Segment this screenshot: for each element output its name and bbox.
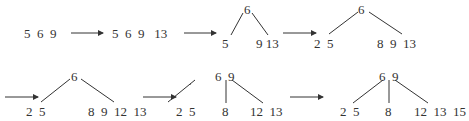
step-3-leaf: 5	[222, 37, 229, 50]
step-5-root: 6	[71, 70, 78, 83]
step-5-leaf: 2 5	[26, 105, 46, 118]
edge	[232, 80, 263, 103]
diagram-canvas	[0, 0, 469, 121]
step-6-leaf: 8	[222, 105, 229, 118]
step-6-root: 6 9	[215, 70, 235, 83]
step-1-keys: 5 6 9	[24, 27, 57, 40]
edge	[41, 79, 70, 102]
edge	[329, 12, 358, 34]
step-3-root: 6	[244, 3, 251, 16]
step-6-leaf: 2 5	[176, 105, 196, 118]
edge	[231, 13, 243, 35]
step-2-keys: 5 6 9 13	[112, 27, 167, 40]
edge	[395, 80, 428, 103]
step-5-leaf: 8 9 12 13	[88, 105, 147, 118]
step-3-leaf: 9 13	[256, 37, 279, 50]
step-4-root: 6	[358, 3, 365, 16]
step-7-leaf: 12 13 15	[414, 105, 466, 118]
step-6-leaf: 12 13	[250, 105, 283, 118]
edge	[81, 79, 114, 102]
step-7-leaf: 2 5	[340, 105, 360, 118]
step-4-leaf: 2 5	[314, 37, 334, 50]
step-7-root: 6 9	[379, 70, 399, 83]
step-7-leaf: 8	[385, 105, 392, 118]
edge	[168, 80, 195, 102]
edge	[369, 12, 402, 34]
step-4-leaf: 8 9 13	[377, 37, 416, 50]
edge	[252, 13, 268, 35]
